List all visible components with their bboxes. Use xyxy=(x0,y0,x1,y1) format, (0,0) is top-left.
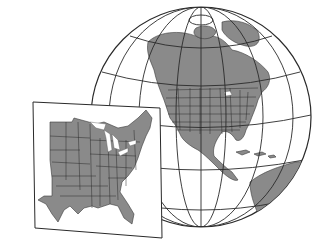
inset-map xyxy=(33,102,162,238)
map-figure xyxy=(0,0,319,250)
